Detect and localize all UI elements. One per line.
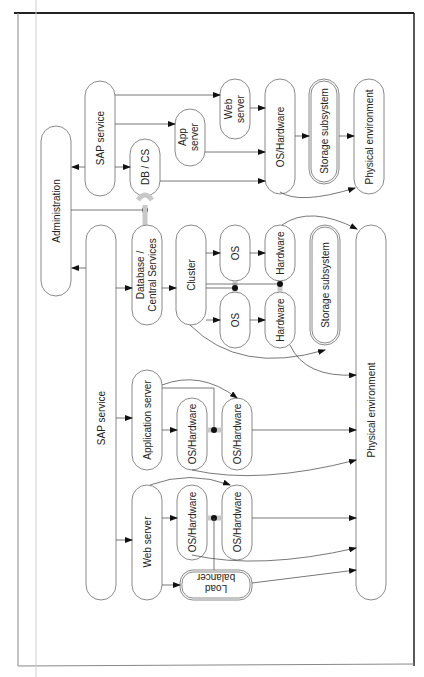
node-db-cs: DB / CS xyxy=(130,139,160,196)
svg-text:Load: Load xyxy=(205,583,227,594)
node-app-server-top: App server xyxy=(175,109,205,166)
node-web-os-hardware-2: OS/Hardware xyxy=(222,485,252,560)
node-hardware-2: Hardware xyxy=(265,292,295,348)
node-database-central-services: Database / Central Services xyxy=(132,225,162,325)
node-physical-environment-top: Physical environment xyxy=(354,79,384,194)
svg-text:Application server: Application server xyxy=(142,380,153,460)
node-application-server: Application server xyxy=(132,370,162,470)
svg-text:App: App xyxy=(177,128,188,146)
node-sap-service-top: SAP service xyxy=(85,81,115,196)
node-physical-environment-bottom: Physical environment xyxy=(356,225,386,600)
node-sap-service-bottom: SAP service xyxy=(86,225,116,600)
node-storage-subsystem-top: Storage subsystem xyxy=(309,79,339,184)
svg-text:Physical environment: Physical environment xyxy=(366,362,377,457)
node-load-balancer: Load balancer xyxy=(180,570,252,600)
node-app-os-hardware-2: OS/Hardware xyxy=(222,398,252,470)
node-os-2: OS xyxy=(220,292,250,348)
svg-text:OS/Hardware: OS/Hardware xyxy=(275,106,286,167)
svg-text:balancer: balancer xyxy=(196,572,235,583)
svg-text:Storage subsystem: Storage subsystem xyxy=(319,88,330,174)
svg-text:SAP service: SAP service xyxy=(95,110,106,165)
svg-text:Web server: Web server xyxy=(142,516,153,568)
svg-text:OS: OS xyxy=(230,245,241,260)
svg-text:Web: Web xyxy=(223,98,234,119)
svg-text:Database /: Database / xyxy=(135,251,146,300)
diagram-canvas: Administration SAP service DB / CS App s… xyxy=(0,0,424,677)
node-storage-subsystem-bottom: Storage subsystem xyxy=(310,225,340,345)
svg-text:Cluster: Cluster xyxy=(186,258,197,290)
svg-text:Central Services: Central Services xyxy=(147,238,158,311)
node-cluster: Cluster xyxy=(176,225,206,325)
node-hardware-1: Hardware xyxy=(265,225,295,281)
frame-bottom xyxy=(18,664,414,666)
cluster-interconnects xyxy=(206,281,283,292)
svg-text:OS: OS xyxy=(230,312,241,327)
svg-text:DB / CS: DB / CS xyxy=(140,149,151,185)
node-web-server: Web server xyxy=(132,485,162,600)
svg-text:OS/Hardware: OS/Hardware xyxy=(232,403,243,464)
node-administration: Administration xyxy=(41,126,71,296)
svg-text:OS/Hardware: OS/Hardware xyxy=(232,491,243,552)
svg-text:OS/Hardware: OS/Hardware xyxy=(187,491,198,552)
node-web-os-hardware-1: OS/Hardware xyxy=(177,485,207,560)
svg-text:Hardware: Hardware xyxy=(275,231,286,275)
svg-text:server: server xyxy=(235,94,246,122)
node-os-1: OS xyxy=(220,225,250,281)
svg-text:Hardware: Hardware xyxy=(275,298,286,342)
svg-text:Administration: Administration xyxy=(51,179,62,242)
node-web-server-top: Web server xyxy=(220,79,250,139)
node-os-hardware-top: OS/Hardware xyxy=(265,79,295,194)
svg-text:server: server xyxy=(189,122,200,150)
svg-text:SAP service: SAP service xyxy=(96,390,107,445)
svg-text:Physical environment: Physical environment xyxy=(364,89,375,184)
svg-text:Storage subsystem: Storage subsystem xyxy=(320,242,331,328)
node-app-os-hardware-1: OS/Hardware xyxy=(177,398,207,470)
svg-text:OS/Hardware: OS/Hardware xyxy=(187,403,198,464)
